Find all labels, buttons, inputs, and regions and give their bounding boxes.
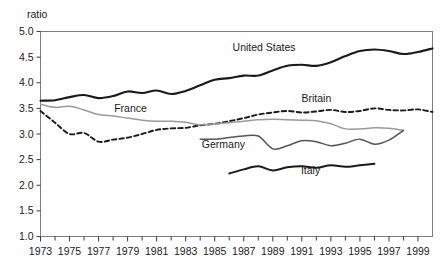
- y-tick-label: 4.0: [19, 76, 34, 88]
- y-axis-unit-label: ratio: [27, 8, 48, 20]
- x-tick-label: 1989: [261, 245, 285, 257]
- x-axis-ticks: [41, 237, 418, 242]
- x-tick-label: 1999: [406, 245, 430, 257]
- y-axis-ticks: [37, 32, 41, 237]
- series-label-united-states: United States: [233, 41, 296, 53]
- x-tick-label: 1985: [203, 245, 227, 257]
- x-tick-label: 1993: [319, 245, 343, 257]
- series-label-britain: Britain: [301, 92, 331, 104]
- y-tick-label: 5.0: [19, 25, 34, 37]
- chart-container: ratio 1.01.52.02.53.03.54.04.55.0 197319…: [0, 0, 445, 266]
- y-axis-tick-labels: 1.01.52.02.53.03.54.04.55.0: [19, 25, 34, 242]
- y-tick-label: 2.5: [19, 153, 34, 165]
- series-label-germany: Germany: [202, 138, 246, 150]
- y-tick-label: 3.5: [19, 102, 34, 114]
- x-tick-label: 1995: [348, 245, 372, 257]
- x-tick-label: 1997: [377, 245, 401, 257]
- y-tick-label: 1.0: [19, 230, 34, 242]
- x-tick-label: 1975: [58, 245, 82, 257]
- y-tick-label: 4.5: [19, 51, 34, 63]
- y-tick-label: 1.5: [19, 204, 34, 216]
- line-chart: ratio 1.01.52.02.53.03.54.04.55.0 197319…: [0, 0, 445, 266]
- x-tick-label: 1979: [116, 245, 140, 257]
- series-label-france: France: [114, 102, 147, 114]
- series-line-united-states: [41, 48, 433, 100]
- series-labels: United StatesBritainFranceGermanyItaly: [114, 41, 331, 176]
- series-line-france: [41, 104, 404, 130]
- x-tick-label: 1977: [87, 245, 111, 257]
- y-tick-label: 3.0: [19, 128, 34, 140]
- x-tick-label: 1981: [145, 245, 169, 257]
- x-tick-label: 1983: [174, 245, 198, 257]
- x-axis-tick-labels: 1973197519771979198119831985198719891991…: [29, 245, 430, 257]
- x-tick-label: 1991: [290, 245, 314, 257]
- plot-frame: [41, 32, 433, 237]
- y-tick-label: 2.0: [19, 179, 34, 191]
- series-label-italy: Italy: [301, 164, 321, 176]
- x-tick-label: 1987: [232, 245, 256, 257]
- x-tick-label: 1973: [29, 245, 53, 257]
- series-lines: [41, 48, 433, 173]
